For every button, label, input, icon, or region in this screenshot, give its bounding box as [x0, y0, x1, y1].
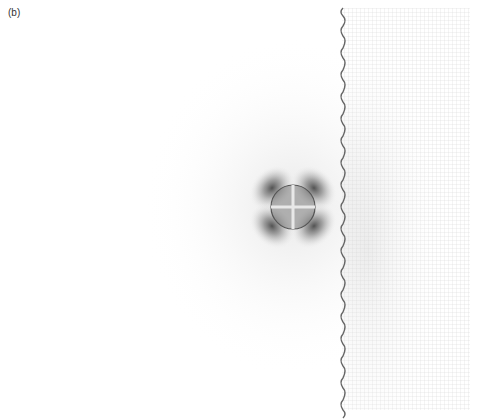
figure-canvas: [0, 0, 477, 419]
inclusion: [271, 185, 315, 229]
